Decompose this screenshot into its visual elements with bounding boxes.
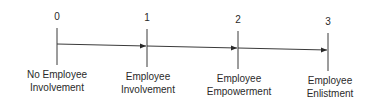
stage-0: 0No EmployeeInvolvement [27,11,87,93]
stage-number: 0 [54,11,60,22]
stage-label-line: Employee [308,75,353,86]
stage-label-line: Enlistment [307,88,354,99]
stage-number: 3 [325,16,331,27]
stage-label-line: Involvement [30,82,84,93]
stage-1: 1EmployeeInvolvement [121,12,175,95]
arrow-line-1-to-2 [147,46,237,48]
employee-involvement-continuum: 0No EmployeeInvolvement1EmployeeInvolvem… [0,0,370,109]
stage-number: 1 [144,12,150,23]
stage-3: 3EmployeeEnlistment [307,16,354,99]
stage-2: 2EmployeeEmpowerment [207,14,272,97]
stage-label-line: Empowerment [207,86,272,97]
stage-number: 2 [235,14,241,25]
stage-label-line: Involvement [121,84,175,95]
stage-label-line: No Employee [27,69,87,80]
arrowhead-icon [140,44,146,49]
arrow-line-0-to-1 [57,44,146,46]
arrowhead-icon [321,48,327,53]
stage-label-line: Employee [217,73,262,84]
arrow-line-2-to-3 [238,48,327,50]
arrowhead-icon [231,46,237,51]
stage-label-line: Employee [126,71,171,82]
